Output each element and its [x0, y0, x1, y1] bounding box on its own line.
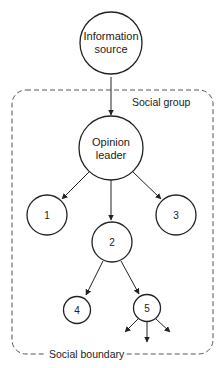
node-2: 2	[92, 222, 132, 262]
edge-leader-3	[133, 172, 161, 199]
node-3: 3	[156, 195, 196, 235]
node-label: Information	[83, 30, 138, 42]
node-opinion-leader: Opinion leader	[79, 116, 143, 180]
node-label: leader	[96, 149, 127, 161]
node-label: 2	[109, 237, 115, 248]
edge-2-4	[86, 261, 103, 295]
node-4: 4	[64, 297, 91, 324]
node-label: 5	[144, 303, 150, 314]
edge-5-out-right	[156, 319, 170, 332]
node-5: 5	[134, 295, 161, 322]
node-label: 1	[44, 210, 50, 221]
node-label: 4	[74, 305, 80, 316]
node-information-source: Information source	[80, 12, 142, 74]
node-1: 1	[27, 195, 67, 235]
edge-2-5	[121, 261, 139, 294]
edge-leader-1	[62, 172, 89, 199]
node-label: 3	[173, 210, 179, 221]
node-label: Opinion	[92, 136, 130, 148]
social-boundary-label: Social boundary	[49, 348, 125, 360]
social-group-label: Social group	[132, 96, 191, 108]
node-label: source	[94, 43, 127, 55]
diagram-canvas: Information source Opinion leader 1 2 3 …	[0, 0, 222, 368]
edge-5-out-left	[125, 319, 138, 332]
